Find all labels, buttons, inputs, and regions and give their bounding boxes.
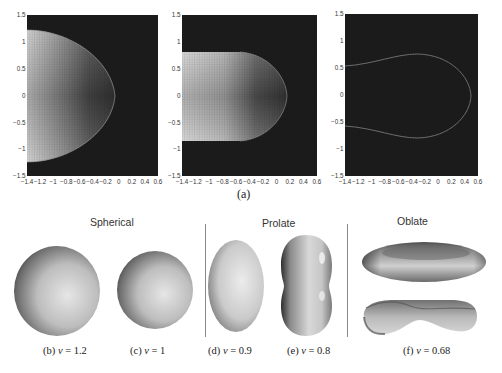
x-tick-label: −0.4 bbox=[405, 178, 418, 185]
x-tick-label: −0.8 bbox=[216, 178, 229, 185]
y-tick-label: −0.5 bbox=[168, 119, 181, 126]
y-tick-label: −0.5 bbox=[13, 119, 26, 126]
shape-e-peanut bbox=[281, 235, 332, 336]
y-tick-label: −1 bbox=[18, 145, 26, 152]
x-tick-label: 0.6 bbox=[313, 178, 322, 185]
x-tick-label: −0.6 bbox=[230, 178, 243, 185]
y-tick-label: −1.5 bbox=[168, 172, 181, 179]
divider-spherical-prolate bbox=[205, 224, 206, 337]
x-tick-label: −0.6 bbox=[73, 178, 86, 185]
plot-3 bbox=[345, 14, 478, 176]
shape-f-oblate-top bbox=[362, 242, 486, 282]
plot-1 bbox=[27, 15, 158, 176]
y-tick-label: −1.5 bbox=[331, 172, 344, 179]
divider-prolate-oblate bbox=[347, 224, 348, 337]
x-tick-label: −0.2 bbox=[99, 178, 112, 185]
x-tick-label: −1 bbox=[368, 178, 376, 185]
y-tick-label: 0 bbox=[177, 92, 181, 99]
x-tick-label: −0.4 bbox=[243, 178, 256, 185]
x-tick-label: 0 bbox=[275, 178, 279, 185]
y-tick-label: 1 bbox=[340, 37, 344, 44]
y-tick-label: 0.5 bbox=[172, 65, 181, 72]
shape-d-prolate bbox=[208, 240, 264, 332]
group-label-spherical: Spherical bbox=[90, 216, 134, 228]
y-tick-label: −1 bbox=[336, 145, 344, 152]
caption-b: (b) ν = 1.2 bbox=[43, 345, 87, 356]
x-tick-label: −0.8 bbox=[379, 178, 392, 185]
x-tick-label: −0.2 bbox=[257, 178, 270, 185]
panel-a-plots: −1.4−1.2−1−0.8−0.6−0.4−0.200.20.40.61.51… bbox=[0, 0, 502, 373]
shape-c-sphere bbox=[117, 251, 193, 329]
y-tick-label: 0.5 bbox=[335, 64, 344, 71]
x-tick-label: 0.2 bbox=[447, 178, 456, 185]
y-tick-label: 1 bbox=[177, 38, 181, 45]
x-tick-label: 0.2 bbox=[286, 178, 295, 185]
y-tick-label: −1 bbox=[173, 145, 181, 152]
x-tick-label: 0.6 bbox=[474, 178, 483, 185]
y-tick-label: 1 bbox=[22, 38, 26, 45]
group-label-prolate: Prolate bbox=[262, 217, 295, 229]
caption-e: (e) ν = 0.8 bbox=[287, 345, 330, 356]
x-tick-label: −1.2 bbox=[352, 178, 365, 185]
y-tick-label: 0 bbox=[340, 91, 344, 98]
x-tick-label: 0.4 bbox=[141, 178, 150, 185]
y-tick-label: −1.5 bbox=[13, 172, 26, 179]
x-tick-label: 0.6 bbox=[154, 178, 163, 185]
group-label-oblate: Oblate bbox=[397, 215, 428, 227]
x-tick-label: −0.2 bbox=[419, 178, 432, 185]
caption-d: (d) ν = 0.9 bbox=[208, 345, 252, 356]
y-tick-label: 0 bbox=[22, 92, 26, 99]
y-tick-label: 1.5 bbox=[17, 11, 26, 18]
x-tick-label: −1 bbox=[205, 178, 213, 185]
shape-f-oblate-cut bbox=[364, 300, 477, 334]
x-tick-label: −0.4 bbox=[86, 178, 99, 185]
x-tick-label: −1.2 bbox=[34, 178, 47, 185]
x-tick-label: 0.4 bbox=[460, 178, 469, 185]
x-tick-label: 0.4 bbox=[299, 178, 308, 185]
x-tick-label: −1.2 bbox=[189, 178, 202, 185]
y-tick-label: 1.5 bbox=[335, 10, 344, 17]
x-tick-label: −1 bbox=[50, 178, 58, 185]
y-tick-label: 1.5 bbox=[172, 11, 181, 18]
caption-f: (f) ν = 0.68 bbox=[403, 345, 450, 356]
shape-b-sphere bbox=[14, 246, 100, 336]
plot-2 bbox=[182, 15, 317, 176]
x-tick-label: −0.8 bbox=[60, 178, 73, 185]
x-tick-label: 0.2 bbox=[127, 178, 136, 185]
x-tick-label: −0.6 bbox=[392, 178, 405, 185]
y-tick-label: −0.5 bbox=[331, 118, 344, 125]
x-tick-label: 0 bbox=[436, 178, 440, 185]
panel-a-label: (a) bbox=[237, 187, 250, 202]
x-tick-label: 0 bbox=[117, 178, 121, 185]
caption-c: (c) ν = 1 bbox=[130, 345, 165, 356]
y-tick-label: 0.5 bbox=[17, 65, 26, 72]
